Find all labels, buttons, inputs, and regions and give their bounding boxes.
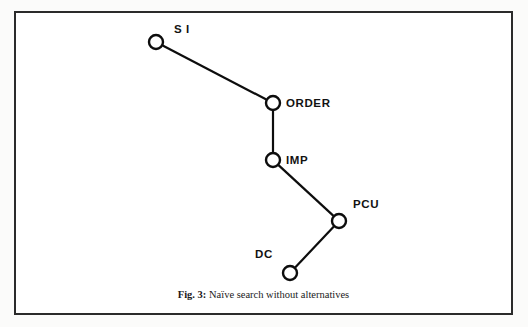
tree-node-label-si: S I	[174, 24, 190, 36]
tree-edge-pcu-dc	[295, 226, 334, 267]
tree-edge-imp-pcu	[279, 165, 334, 216]
figure-caption-text: Naïve search without alternatives	[209, 289, 349, 300]
figure-caption: Fig. 3: Naïve search without alternative…	[14, 289, 513, 302]
tree-node-order	[266, 96, 280, 110]
tree-node-label-order: ORDER	[286, 98, 331, 110]
tree-node-label-pcu: PCU	[353, 199, 379, 211]
tree-node-pcu	[332, 214, 346, 228]
node-layer	[149, 35, 346, 280]
figure-frame: S IORDERIMPPCUDC	[14, 11, 513, 315]
tree-edge-si-order	[163, 45, 267, 99]
figure-caption-number: Fig. 3:	[178, 289, 207, 300]
tree-node-label-dc: DC	[255, 249, 273, 261]
tree-node-dc	[283, 266, 297, 280]
tree-node-imp	[266, 153, 280, 167]
tree-node-si	[149, 35, 163, 49]
tree-node-label-imp: IMP	[286, 155, 308, 167]
scanned-page-background: S IORDERIMPPCUDC Fig. 3: Naïve search wi…	[0, 0, 528, 327]
search-tree-diagram	[16, 13, 515, 317]
